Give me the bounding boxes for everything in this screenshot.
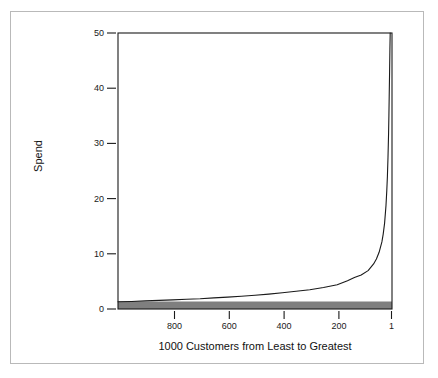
x-axis-ticks	[175, 311, 392, 319]
y-tick-label-30: 30	[82, 138, 104, 148]
y-tick-label-10: 10	[82, 249, 104, 259]
x-axis-title: 1000 Customers from Least to Greatest	[118, 340, 392, 352]
y-tick-label-0: 0	[82, 304, 104, 314]
baseline-band	[118, 302, 392, 310]
chart-figure: 50 40 30 20 10 0 800 600 400 200 1 1000 …	[0, 0, 438, 378]
plot-frame	[118, 33, 392, 309]
y-tick-label-40: 40	[82, 83, 104, 93]
y-axis-ticks	[107, 33, 116, 309]
y-tick-label-50: 50	[82, 28, 104, 38]
x-tick-label-200: 200	[319, 321, 359, 331]
x-tick-label-800: 800	[155, 321, 195, 331]
x-tick-label-600: 600	[209, 321, 249, 331]
y-axis-title: Spend	[32, 116, 44, 196]
spend-curve	[118, 33, 390, 302]
x-tick-label-400: 400	[264, 321, 304, 331]
x-tick-label-1: 1	[372, 321, 412, 331]
y-tick-label-20: 20	[82, 194, 104, 204]
